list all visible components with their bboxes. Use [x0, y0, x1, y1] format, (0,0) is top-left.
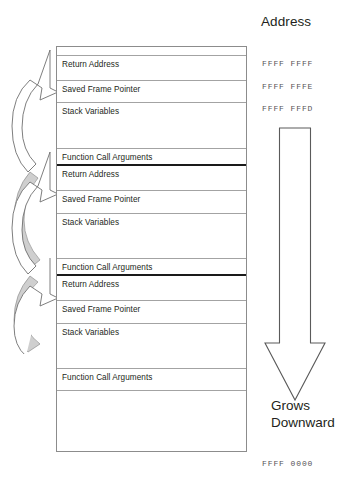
- stack-row: Function Call Arguments: [57, 149, 246, 166]
- stack-row: Saved Frame Pointer: [57, 81, 246, 103]
- grows-downward-caption: Grows Downward: [271, 398, 361, 431]
- stack-row-label: Function Call Arguments: [62, 373, 152, 382]
- stack-row-label: Saved Frame Pointer: [62, 85, 140, 94]
- stack-row: [57, 47, 246, 56]
- stack-row-label: Function Call Arguments: [62, 153, 152, 162]
- address-label-third: FFFF FFFD: [262, 104, 313, 113]
- stack-row: Saved Frame Pointer: [57, 301, 246, 324]
- stack-row-label: Stack Variables: [62, 328, 119, 337]
- stack-diagram-table: Return AddressSaved Frame PointerStack V…: [56, 46, 247, 452]
- grows-downward-arrow-svg: [262, 124, 332, 406]
- stack-row: Saved Frame Pointer: [57, 191, 246, 214]
- address-label-second: FFFF FFFE: [262, 82, 313, 91]
- stack-row-label: Stack Variables: [62, 218, 119, 227]
- stack-row: [57, 391, 246, 451]
- address-label-bottom: FFFF 0000: [262, 459, 313, 468]
- address-column-title: Address: [261, 14, 311, 29]
- stack-row: Stack Variables: [57, 324, 246, 369]
- grows-downward-caption-line2: Downward: [271, 415, 361, 432]
- call-arrow-2: [12, 152, 58, 274]
- call-arrow-1: [12, 50, 58, 172]
- stack-row: Return Address: [57, 56, 246, 81]
- stack-row: Return Address: [57, 276, 246, 301]
- stack-row: Function Call Arguments: [57, 369, 246, 391]
- stack-row: Stack Variables: [57, 214, 246, 259]
- stack-row-label: Saved Frame Pointer: [62, 195, 140, 204]
- stack-row: Return Address: [57, 166, 246, 191]
- stack-row-label: Return Address: [62, 170, 119, 179]
- call-arrow-3: [14, 258, 58, 354]
- address-label-top: FFFF FFFF: [262, 59, 313, 68]
- stack-row-label: Stack Variables: [62, 107, 119, 116]
- stack-row-label: Function Call Arguments: [62, 263, 152, 272]
- stack-row: Function Call Arguments: [57, 259, 246, 276]
- stack-row: Stack Variables: [57, 103, 246, 149]
- grows-downward-caption-line1: Grows: [271, 398, 361, 415]
- stack-row-label: Saved Frame Pointer: [62, 305, 140, 314]
- grows-downward-arrow-icon: [262, 124, 332, 406]
- stack-row-label: Return Address: [62, 280, 119, 289]
- stack-row-label: Return Address: [62, 60, 119, 69]
